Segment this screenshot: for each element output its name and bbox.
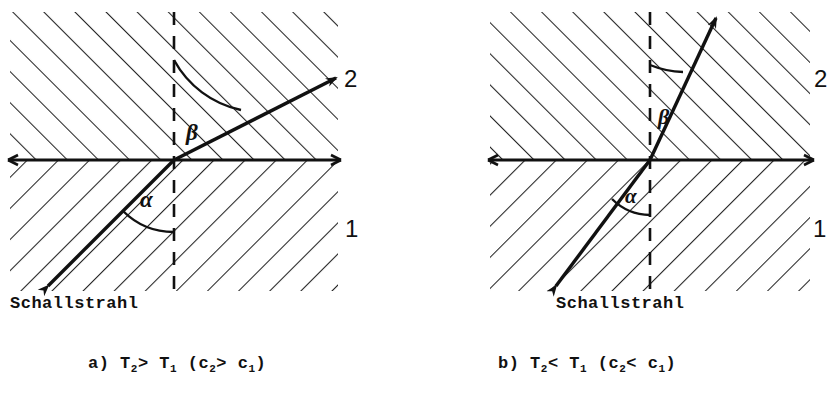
panel-b-caption-rel1: < bbox=[548, 354, 559, 373]
panel-a-schallstrahl-label: Schallstrahl bbox=[10, 294, 138, 313]
panel-b-lower-medium bbox=[490, 160, 810, 291]
panel-a-caption-prefix: a) bbox=[88, 354, 109, 373]
panel-a-caption-rel1: > bbox=[138, 354, 149, 373]
panel-a-beta-label: β bbox=[185, 120, 198, 145]
panel-a-caption-t2-sub: 2 bbox=[131, 363, 138, 375]
panel-b-alpha-label: α bbox=[625, 184, 637, 208]
panel-b-caption-paren-close: ) bbox=[666, 354, 677, 373]
panel-b-caption-c1-sub: 1 bbox=[658, 363, 665, 375]
panel-a-medium-lower-label: 1 bbox=[345, 215, 358, 242]
panel-b-medium-upper-label: 2 bbox=[814, 65, 827, 92]
panel-b: β α 2 1 bbox=[488, 12, 827, 292]
panel-b-schallstrahl-label: Schallstrahl bbox=[556, 294, 684, 313]
panel-a-caption-t1: T bbox=[159, 354, 170, 373]
refraction-figure: β α 2 1 β α 2 1 bbox=[0, 0, 834, 398]
panel-b-beta-label: β bbox=[657, 104, 670, 129]
panel-a-alpha-label: α bbox=[140, 187, 154, 212]
panel-a-caption-t1-sub: 1 bbox=[170, 363, 177, 375]
panel-b-caption-t1-sub: 1 bbox=[580, 363, 587, 375]
panel-a-caption: a) T2> T1 (c2> c1) bbox=[88, 354, 266, 375]
panel-b-caption-c1: c bbox=[648, 354, 659, 373]
panel-b-caption-t2: T bbox=[530, 354, 541, 373]
panel-b-caption-paren-open: (c bbox=[598, 354, 619, 373]
panel-b-caption-rel2: < bbox=[626, 354, 637, 373]
panel-b-caption-t2-sub: 2 bbox=[541, 363, 548, 375]
panel-a-caption-paren-open: (c bbox=[188, 354, 209, 373]
panel-a-caption-c1: c bbox=[238, 354, 249, 373]
panel-a-caption-rel2: > bbox=[216, 354, 227, 373]
panel-b-medium-lower-label: 1 bbox=[813, 215, 826, 242]
panel-a-lower-medium bbox=[10, 160, 338, 291]
panel-a-caption-c1-sub: 1 bbox=[248, 363, 255, 375]
panel-a-caption-t2: T bbox=[120, 354, 131, 373]
panel-a: β α 2 1 bbox=[8, 12, 358, 292]
panel-a-medium-upper-label: 2 bbox=[344, 65, 357, 92]
panel-b-caption-t1: T bbox=[569, 354, 580, 373]
panel-b-caption: b) T2< T1 (c2< c1) bbox=[498, 354, 676, 375]
panel-a-caption-paren-close: ) bbox=[256, 354, 267, 373]
panel-b-caption-prefix: b) bbox=[498, 354, 519, 373]
